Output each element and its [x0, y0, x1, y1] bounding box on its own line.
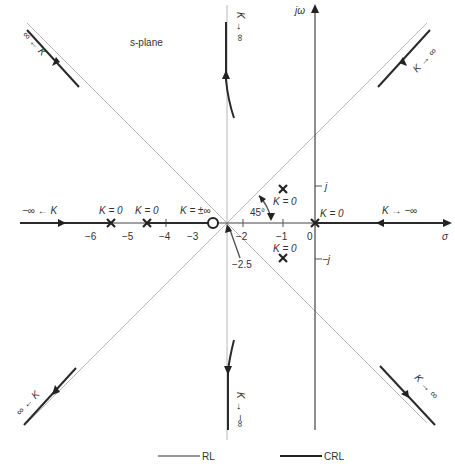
tick-label: −6 [85, 231, 97, 242]
zero-label: K = ±∞ [180, 205, 211, 216]
pole-label: K = 0 [99, 205, 123, 216]
imag-axis-arrow-icon [311, 4, 319, 13]
tick-label-neg-j: −j [322, 254, 331, 265]
bottom-left-annotation: ∞ ← K [13, 387, 42, 417]
top-left-annotation: ∞ ← K [21, 29, 50, 59]
legend-rl-label: RL [202, 451, 215, 462]
plane-title: s-plane [130, 37, 163, 48]
tick-label: 0 [307, 231, 313, 242]
tick-label-j: j [323, 181, 328, 192]
tick-label: −4 [159, 231, 171, 242]
left-real-annotation: −∞ ← K [22, 205, 59, 216]
pole-marker [279, 185, 287, 193]
arrow-icon [267, 213, 275, 221]
imag-axis-label: jω [293, 5, 305, 16]
pole-marker [279, 254, 287, 262]
tick-label: −2 [236, 231, 248, 242]
zero-marker [208, 218, 218, 228]
bottom-center-annotation: K → −∞ [235, 392, 246, 427]
root-locus-diagram: σ jω −6 −5 −4 −3 −2 −1 0 j −j s-plane [0, 0, 455, 467]
arrow-icon [399, 57, 407, 66]
top-center-annotation: K → ∞ [235, 12, 246, 41]
angle-label: 45° [250, 207, 265, 218]
arrow-icon [259, 195, 266, 203]
top-right-annotation: K → ∞ [410, 45, 438, 74]
right-real-annotation: K → −∞ [382, 205, 417, 216]
bottom-right-annotation: K → ∞ [413, 372, 441, 401]
legend: RL CRL [158, 451, 344, 462]
asymptote-center-label: −2.5 [232, 259, 252, 270]
pole-label: K = 0 [135, 205, 159, 216]
arrow-icon [224, 366, 232, 375]
pole-label: K = 0 [273, 196, 297, 207]
axes: σ jω [20, 4, 452, 430]
tick-label: −1 [276, 231, 288, 242]
arrow-icon [58, 219, 66, 227]
pole-label: K = 0 [273, 243, 297, 254]
tick-label: −5 [122, 231, 134, 242]
legend-crl-label: CRL [324, 451, 344, 462]
real-axis-label: σ [442, 231, 449, 242]
arrow-icon [222, 70, 230, 79]
pole-label: K = 0 [320, 208, 344, 219]
arrow-icon [376, 219, 384, 227]
tick-label: −3 [187, 231, 199, 242]
